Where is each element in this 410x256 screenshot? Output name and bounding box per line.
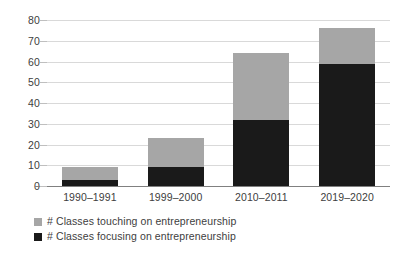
bar-segment-focusing [319, 64, 375, 186]
bar-group [319, 20, 375, 186]
bar-segment-touching [62, 167, 118, 179]
y-tick-mark [40, 124, 47, 125]
chart-legend: # Classes touching on entrepreneurship# … [34, 214, 236, 244]
y-tick-label: 30 [6, 119, 40, 130]
y-tick-mark [40, 41, 47, 42]
bar-segment-focusing [233, 120, 289, 186]
legend-swatch-icon [34, 233, 42, 241]
x-axis-baseline [35, 186, 390, 187]
y-axis: 01020304050607080 [0, 0, 40, 186]
bar-group [148, 20, 204, 186]
x-tick-label: 2019–2020 [302, 192, 392, 203]
y-tick-mark [40, 62, 47, 63]
bar-group [62, 20, 118, 186]
y-tick-label: 60 [6, 57, 40, 68]
y-tick-label: 50 [6, 77, 40, 88]
legend-label: # Classes touching on entrepreneurship [47, 216, 236, 227]
legend-label: # Classes focusing on entrepreneurship [47, 231, 236, 242]
bar-segment-focusing [148, 167, 204, 186]
y-tick-mark [40, 82, 47, 83]
y-tick-label: 20 [6, 140, 40, 151]
y-tick-label: 10 [6, 160, 40, 171]
legend-item[interactable]: # Classes touching on entrepreneurship [34, 214, 236, 229]
legend-item[interactable]: # Classes focusing on entrepreneurship [34, 229, 236, 244]
x-tick-label: 1990–1991 [45, 192, 135, 203]
bar-group [233, 20, 289, 186]
y-tick-mark [40, 165, 47, 166]
y-tick-mark [40, 145, 47, 146]
y-tick-label: 40 [6, 98, 40, 109]
y-tick-mark [40, 186, 47, 187]
legend-swatch-icon [34, 218, 42, 226]
bar-segment-touching [233, 53, 289, 119]
bar-segment-touching [319, 28, 375, 63]
y-tick-label: 70 [6, 36, 40, 47]
x-tick-label: 2010–2011 [216, 192, 306, 203]
y-tick-mark [40, 20, 47, 21]
y-tick-label: 80 [6, 15, 40, 26]
bar-segment-focusing [62, 180, 118, 186]
stacked-bar-chart: 01020304050607080 1990–19911999–20002010… [0, 0, 410, 256]
y-tick-mark [40, 103, 47, 104]
bar-segment-touching [148, 138, 204, 167]
x-tick-label: 1999–2000 [131, 192, 221, 203]
